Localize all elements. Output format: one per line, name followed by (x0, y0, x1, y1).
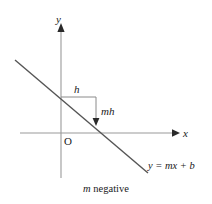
rise-arrowhead-icon (93, 118, 100, 126)
caption-symbol: m (83, 183, 91, 194)
diagram-canvas (0, 0, 212, 204)
plotted-line (15, 60, 148, 173)
figure-caption: m negative (0, 184, 212, 195)
caption-text: negative (91, 183, 129, 194)
origin-label: O (64, 136, 72, 147)
x-axis-label: x (183, 128, 188, 139)
rise-label: mh (101, 106, 114, 117)
y-axis-label: y (56, 14, 61, 25)
slope-diagram: y x O h mh y = mx + b m negative (0, 0, 212, 204)
x-axis-arrowhead-icon (172, 129, 180, 137)
line-equation-label: y = mx + b (148, 161, 195, 172)
run-label: h (74, 84, 80, 95)
